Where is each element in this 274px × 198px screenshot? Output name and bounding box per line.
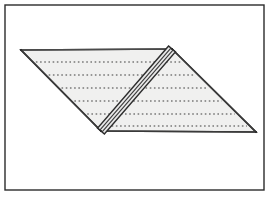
figure-canvas — [0, 0, 274, 198]
vertex-top-right — [171, 48, 173, 50]
vertex-bottom-left — [100, 130, 102, 132]
vertex-top-left — [20, 49, 22, 51]
figure-drawing — [0, 0, 274, 198]
bottom-edge — [101, 131, 256, 132]
vertex-bottom-right — [255, 131, 257, 133]
